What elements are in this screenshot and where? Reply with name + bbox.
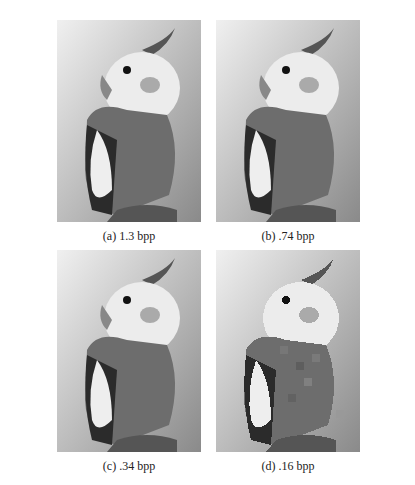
- image-panel-b: [216, 20, 360, 222]
- panel-caption-b: (b) .74 bpp: [216, 229, 360, 244]
- image-panel-a: [57, 20, 201, 222]
- image-panel-d: [216, 250, 360, 452]
- panel-caption-a: (a) 1.3 bpp: [57, 229, 201, 244]
- panel-caption-d: (d) .16 bpp: [216, 459, 360, 474]
- panel-caption-c: (c) .34 bpp: [57, 459, 201, 474]
- cockatiel-image-blocky: [216, 250, 360, 452]
- cockatiel-image: [216, 20, 360, 222]
- cockatiel-image: [57, 250, 201, 452]
- cockatiel-image: [57, 20, 201, 222]
- image-panel-c: [57, 250, 201, 452]
